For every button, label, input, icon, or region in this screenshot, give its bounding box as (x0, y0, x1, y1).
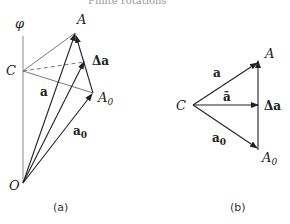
A-label: A (76, 12, 86, 27)
a-label-b: a (213, 66, 221, 80)
line-C-mid (23, 62, 84, 71)
header-title: Finite rotations (88, 0, 166, 6)
a-bar-label: ā (223, 90, 231, 104)
a0-label-b: a0 (212, 131, 226, 147)
C-label-b: C (176, 98, 186, 113)
figure-b: A a C ā Δa a0 A0 (b) (176, 46, 281, 214)
C-label: C (6, 63, 16, 78)
a-vector (23, 34, 75, 183)
caption-b: (b) (230, 201, 246, 214)
delta-a-label: Δa (92, 54, 109, 68)
caption-a: (a) (53, 201, 68, 214)
A-label-b: A (264, 46, 274, 61)
A0-label: A0 (97, 90, 113, 107)
delta-a-vector (76, 36, 93, 93)
a0-label: a0 (73, 124, 87, 140)
line-C-A (23, 33, 75, 71)
a-label: a (40, 85, 48, 99)
finite-rotation-diagram: Finite rotations φ A C Δa a A0 a0 O (a) … (0, 0, 290, 224)
O-label: O (9, 178, 20, 193)
delta-a-label-b: Δa (264, 99, 281, 113)
figure-a: φ A C Δa a A0 a0 O (a) (6, 12, 113, 214)
A0-label-b: A0 (261, 150, 277, 167)
phi-label: φ (15, 16, 25, 31)
a-mid-vector (23, 62, 84, 183)
